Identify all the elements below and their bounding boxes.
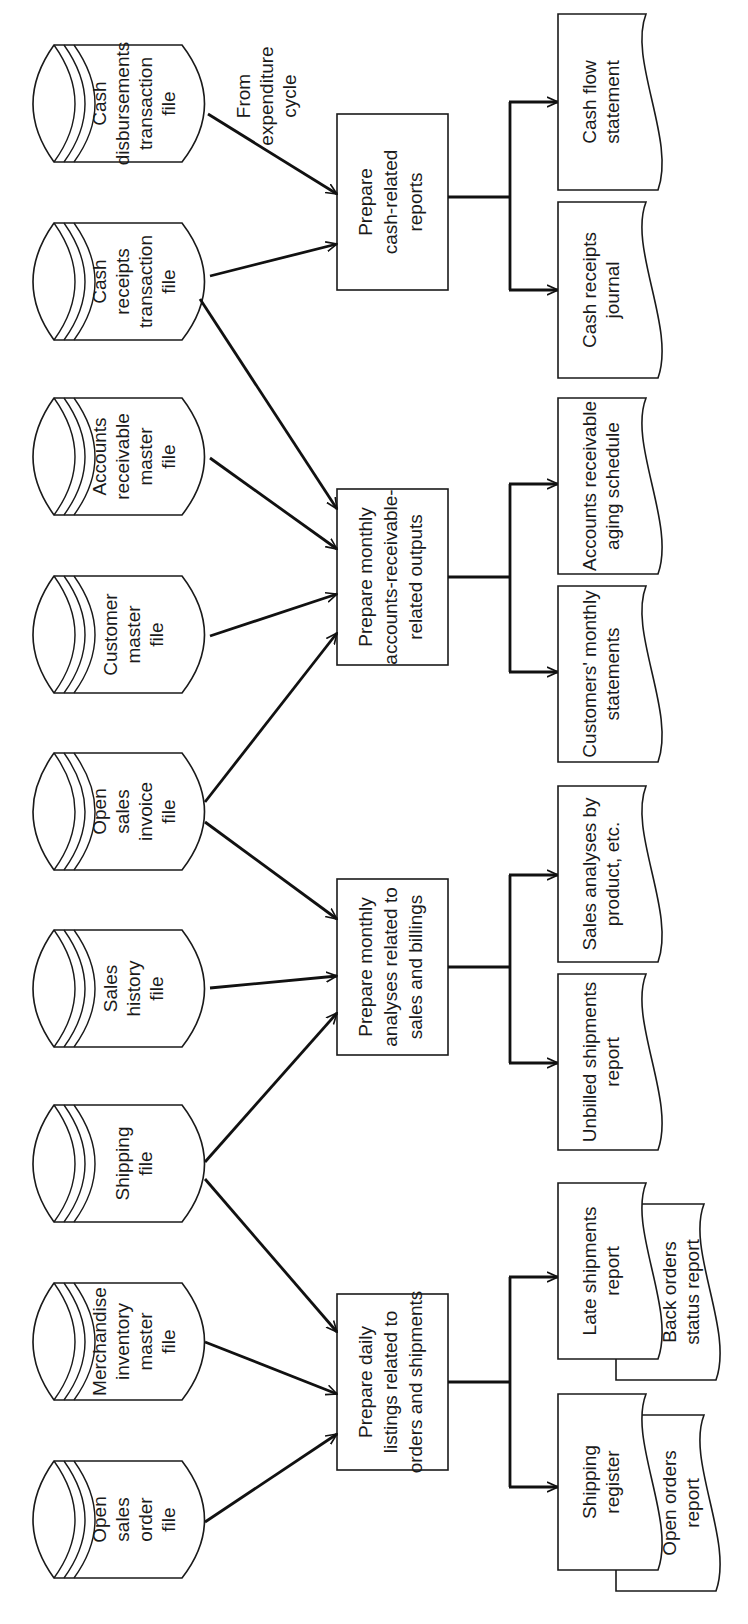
file-label-line: Accounts [89,417,110,495]
svg-text:Cash receipts: Cash receipts [579,232,600,348]
annotation-from-expenditure-cycle: From expenditure cycle [233,46,300,145]
file-label-line: file [146,622,167,646]
file-accounts-receivable-master: Accountsreceivablemasterfile [33,398,205,515]
file-label-line: receivable [112,413,133,500]
svg-text:report: report [602,1245,623,1295]
file-label-line: Open [89,1496,110,1542]
process-monthly-ar-outputs: Prepare monthly accounts-receivable- rel… [337,489,448,665]
svg-text:Prepare monthly: Prepare monthly [355,507,376,647]
svg-text:sales and billings: sales and billings [405,895,426,1040]
svg-text:register: register [602,1450,623,1514]
file-open-sales-order: Opensalesorderfile [33,1461,205,1578]
file-label-line: order [135,1497,156,1542]
svg-text:orders and shipments: orders and shipments [405,1291,426,1474]
svg-text:From: From [233,74,254,118]
file-label-line: Sales [100,965,121,1013]
file-label-line: Open [89,788,110,834]
file-cash-receipts-transaction: Cashreceiptstransactionfile [33,223,205,340]
file-label-line: Merchandise [89,1287,110,1396]
svg-text:related outputs: related outputs [405,514,426,640]
file-cash-disbursements-transaction: Cashdisbursementstransactionfile [33,42,205,166]
process-cash-related-reports: Prepare cash-related reports [337,114,448,290]
file-label-line: file [158,269,179,293]
file-label-line: Cash [89,81,110,125]
svg-text:Customers' monthly: Customers' monthly [579,590,600,758]
file-label-line: file [158,1329,179,1353]
svg-text:listings related to: listings related to [380,1311,401,1454]
svg-text:analyses related to: analyses related to [380,887,401,1047]
file-label-line: invoice [135,782,156,841]
svg-text:Prepare monthly: Prepare monthly [355,897,376,1037]
revenue-cycle-reporting-diagram: Opensalesorderfile Merchandiseinventorym… [0,0,748,1624]
diagram-stage: Opensalesorderfile Merchandiseinventorym… [0,0,748,1624]
svg-text:reports: reports [405,172,426,231]
document-sales-analyses-by-product: Sales analyses by product, etc. [558,786,662,962]
svg-text:Unbilled shipments: Unbilled shipments [579,982,600,1143]
process-daily-listings: Prepare daily listings related to orders… [337,1291,448,1474]
svg-text:statements: statements [602,628,623,721]
file-sales-history: Saleshistoryfile [33,930,205,1047]
svg-text:cash-related: cash-related [380,150,401,255]
file-label-line: file [158,1507,179,1531]
file-label-line: Cash [89,259,110,303]
file-label-line: transaction [135,235,156,328]
document-ar-aging-schedule: Accounts receivable aging schedule [558,398,662,574]
file-label-line: master [123,605,144,664]
file-shipping: Shippingfile [33,1105,205,1222]
file-label-line: file [146,976,167,1000]
svg-text:report: report [602,1036,623,1086]
file-label-line: Customer [100,593,121,676]
document-unbilled-shipments-report: Unbilled shipments report [558,974,662,1150]
svg-text:cycle: cycle [279,74,300,117]
svg-text:report: report [682,1477,703,1527]
file-merchandise-inventory-master: Merchandiseinventorymasterfile [33,1283,205,1400]
file-label-line: file [158,91,179,115]
file-label-line: file [158,444,179,468]
svg-text:Sales analyses by: Sales analyses by [579,797,600,951]
file-label-line: file [135,1151,156,1175]
svg-text:aging schedule: aging schedule [602,422,623,550]
file-label-line: master [135,1312,156,1371]
svg-text:Late shipments: Late shipments [579,1207,600,1336]
output-flows [448,102,558,1487]
svg-text:Accounts receivable: Accounts receivable [579,401,600,571]
file-label-line: disbursements [112,42,133,166]
file-label-line: history [123,960,144,1016]
process-monthly-sales-analyses: Prepare monthly analyses related to sale… [337,879,448,1055]
file-label-line: Shipping [112,1127,133,1201]
svg-text:status report: status report [682,1238,703,1344]
svg-text:Prepare: Prepare [355,168,376,236]
svg-text:Shipping: Shipping [579,1445,600,1519]
svg-text:product, etc.: product, etc. [602,822,623,927]
document-cash-receipts-journal: Cash receipts journal [558,202,662,378]
file-label-line: transaction [135,57,156,150]
file-label-line: master [135,427,156,486]
document-cash-flow-statement: Cash flow statement [558,14,662,190]
svg-text:statement: statement [602,60,623,144]
file-open-sales-invoice: Opensalesinvoicefile [33,753,205,870]
svg-text:expenditure: expenditure [256,46,277,145]
svg-text:accounts-receivable-: accounts-receivable- [380,489,401,664]
file-customer-master: Customermasterfile [33,576,205,693]
file-label-line: sales [112,789,133,833]
svg-text:Prepare daily: Prepare daily [355,1326,376,1438]
svg-text:Cash flow: Cash flow [579,60,600,144]
file-label-line: receipts [112,248,133,315]
svg-text:journal: journal [602,261,623,319]
document-customers-monthly-statements: Customers' monthly statements [558,586,662,762]
file-label-line: sales [112,1497,133,1541]
input-flows [200,114,337,1522]
file-label-line: file [158,799,179,823]
file-label-line: inventory [112,1302,133,1380]
